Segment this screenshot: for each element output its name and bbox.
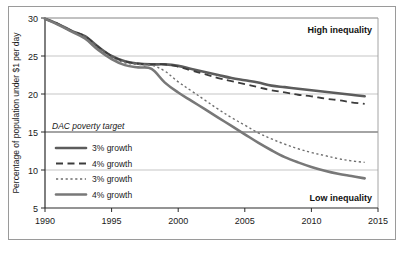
legend-label-1: 4% growth [92,159,132,169]
x-tick-label-2000: 2000 [168,216,188,226]
y-tick-label-15: 15 [28,128,38,138]
y-axis-title: Percentage of population under $1 per da… [11,32,21,194]
y-tick-label-20: 20 [28,90,38,100]
y-tick-label-10: 10 [28,166,38,176]
x-tick-marks [45,208,378,212]
x-tick-label-2005: 2005 [235,216,255,226]
x-tick-label-1990: 1990 [35,216,55,226]
low-inequality-label: Low inequality [309,193,372,203]
legend-label-0: 3% growth [92,143,132,153]
x-tick-label-1995: 1995 [102,216,122,226]
x-tick-label-2015: 2015 [368,216,388,226]
legend-label-3: 4% growth [92,190,132,200]
y-tick-label-30: 30 [28,14,38,24]
dac-poverty-target-label: DAC poverty target [52,121,125,131]
chart-figure: 30 25 20 15 10 5 1990 1995 2000 2005 201… [0,0,405,253]
poverty-projection-line-chart: 30 25 20 15 10 5 1990 1995 2000 2005 201… [0,0,405,253]
legend-label-2: 3% growth [92,174,132,184]
high-inequality-label: High inequality [307,25,372,35]
y-tick-label-25: 25 [28,52,38,62]
x-tick-label-2010: 2010 [301,216,321,226]
y-tick-label-5: 5 [33,204,38,214]
